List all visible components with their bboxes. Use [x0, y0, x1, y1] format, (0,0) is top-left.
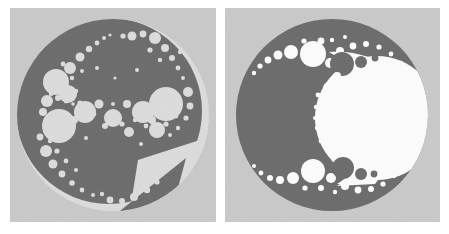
- right-panel-canvas: [225, 8, 440, 222]
- right-panel: [225, 8, 440, 222]
- left-panel: [10, 8, 216, 222]
- right-panel-grain: [225, 8, 440, 222]
- figure-container: Two Kleinian limit set disks: [0, 0, 449, 234]
- left-panel-grain: [10, 8, 216, 222]
- left-panel-canvas: [10, 8, 216, 222]
